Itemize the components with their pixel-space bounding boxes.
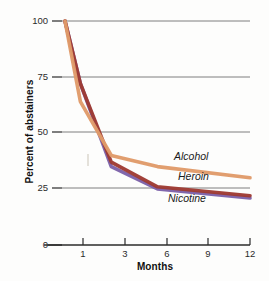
x-axis-title: Months <box>60 261 250 272</box>
series-line-nicotine <box>65 21 250 198</box>
x-axis <box>44 238 250 245</box>
x-tick-label-3: 3 <box>113 248 137 259</box>
y-axis-title: Percent of abstainers <box>24 57 35 207</box>
x-tick-label-1: 1 <box>71 248 95 259</box>
y-axis-ticks <box>48 21 62 245</box>
series-label-alcohol: Alcohol <box>174 150 208 162</box>
x-tick-label-12: 12 <box>238 248 262 259</box>
y-tick-label-0: 0 <box>14 239 48 250</box>
series-label-heroin: Heroin <box>178 170 209 182</box>
x-tick-label-9: 9 <box>196 248 220 259</box>
series-label-nicotine: Nicotine <box>168 192 206 204</box>
series-line-alcohol <box>65 21 250 178</box>
y-tick-label-100: 100 <box>14 15 48 26</box>
relapse-line-chart: 100 75 50 25 0 1 3 6 9 12 Percent of abs… <box>0 0 269 281</box>
series-line-heroin <box>65 21 250 196</box>
x-tick-label-6: 6 <box>155 248 179 259</box>
